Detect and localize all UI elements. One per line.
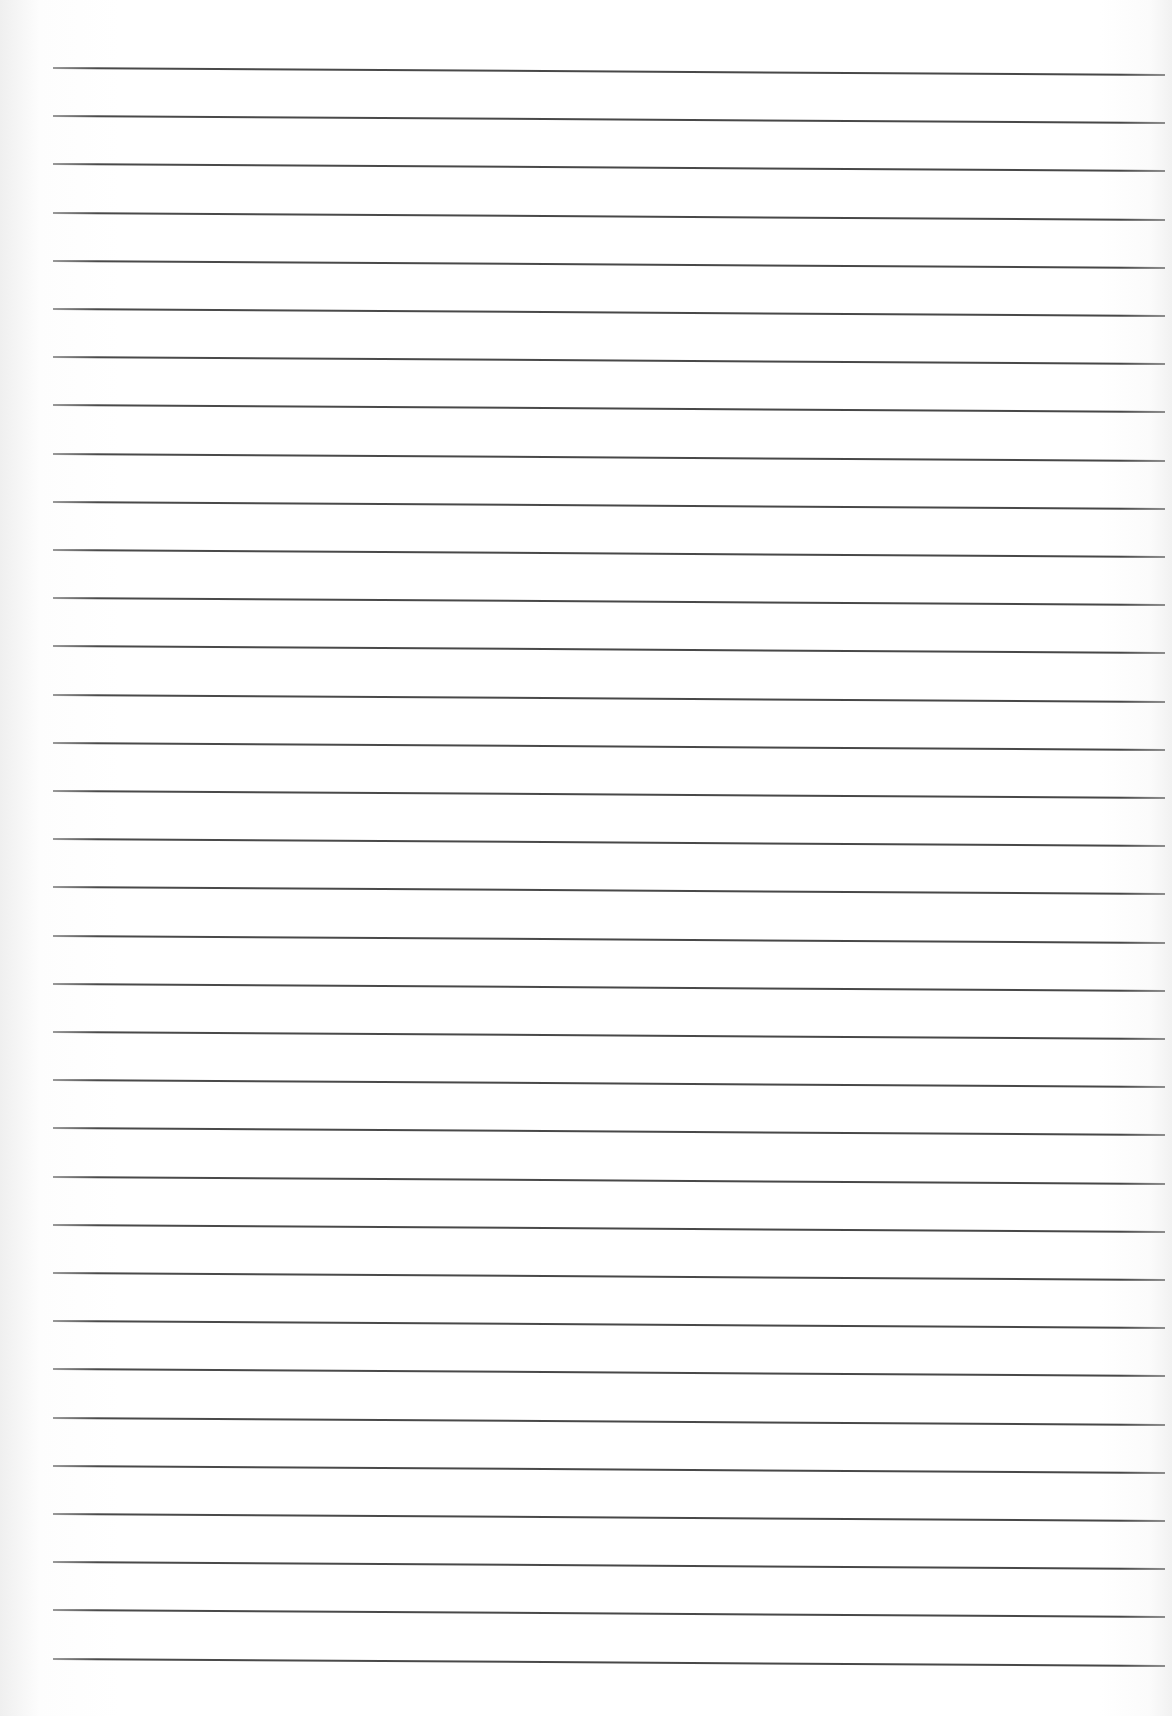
ruled-line xyxy=(53,983,1165,992)
ruled-line xyxy=(53,115,1165,124)
ruled-line xyxy=(53,1127,1165,1136)
ruled-line xyxy=(53,1561,1165,1570)
ruled-line xyxy=(53,1079,1165,1088)
ruled-line xyxy=(53,260,1165,269)
ruled-line xyxy=(53,1031,1165,1040)
ruled-line xyxy=(53,1368,1165,1377)
ruled-line xyxy=(53,67,1165,76)
ruled-line xyxy=(53,1224,1165,1233)
ruled-line xyxy=(53,163,1165,172)
ruled-line xyxy=(53,694,1165,703)
ruled-line xyxy=(53,886,1165,895)
ruled-line xyxy=(53,212,1165,221)
ruled-paper-sheet xyxy=(0,0,1172,1716)
ruled-line xyxy=(53,597,1165,606)
ruled-line xyxy=(53,1320,1165,1329)
ruled-line xyxy=(53,790,1165,799)
ruled-line xyxy=(53,1417,1165,1426)
ruled-line xyxy=(53,1513,1165,1522)
ruled-line xyxy=(53,356,1165,365)
ruled-line xyxy=(53,1465,1165,1474)
ruled-line xyxy=(53,1658,1165,1667)
ruled-line xyxy=(53,645,1165,654)
ruled-line xyxy=(53,404,1165,413)
ruled-line xyxy=(53,935,1165,944)
ruled-line xyxy=(53,838,1165,847)
ruled-line xyxy=(53,453,1165,462)
ruled-line xyxy=(53,308,1165,317)
ruled-line xyxy=(53,1176,1165,1185)
ruled-line xyxy=(53,742,1165,751)
ruled-line xyxy=(53,549,1165,558)
ruled-line xyxy=(53,1609,1165,1618)
ruled-line xyxy=(53,1272,1165,1281)
ruled-line xyxy=(53,501,1165,510)
